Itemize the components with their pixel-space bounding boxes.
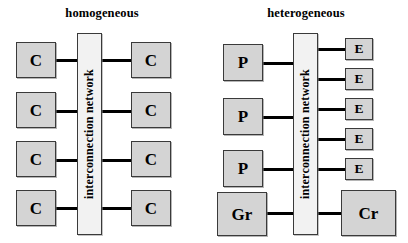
node-label: Cr: [359, 205, 379, 222]
interconnection-network-label: interconnection network: [82, 69, 97, 199]
panel-heterogeneous: heterogeneous interconnection network P …: [204, 0, 408, 243]
link-right-3: [101, 159, 132, 162]
node-left-p-3: P: [223, 150, 263, 187]
node-right-e-2: E: [345, 68, 373, 90]
link-left-p-2: [263, 116, 293, 119]
node-label: Gr: [232, 206, 253, 223]
node-right-e-4: E: [345, 128, 373, 150]
link-left-p-3: [263, 168, 293, 171]
node-right-c-4: C: [131, 190, 171, 226]
interconnection-network-homogeneous: interconnection network: [77, 33, 102, 235]
node-label: C: [30, 151, 42, 168]
panel-title-homogeneous: homogeneous: [0, 6, 204, 21]
link-right-4: [101, 207, 132, 210]
link-left-p-1: [263, 62, 293, 65]
link-right-1: [101, 59, 132, 62]
link-left-2: [55, 110, 78, 113]
node-label: E: [354, 162, 363, 176]
node-right-c-3: C: [131, 141, 171, 177]
node-label: C: [145, 200, 157, 217]
node-left-p-1: P: [223, 44, 263, 81]
node-label: P: [238, 108, 248, 125]
node-label: E: [354, 42, 363, 56]
link-right-2: [101, 110, 132, 113]
node-label: C: [30, 200, 42, 217]
node-right-c-2: C: [131, 92, 171, 128]
link-right-e-2: [318, 78, 345, 81]
node-label: C: [145, 102, 157, 119]
node-right-e-1: E: [345, 38, 373, 60]
node-right-e-5: E: [345, 158, 373, 180]
node-left-gr: Gr: [217, 192, 267, 236]
node-label: C: [30, 102, 42, 119]
node-right-c-1: C: [131, 42, 171, 78]
interconnection-network-heterogeneous: interconnection network: [293, 33, 318, 235]
node-left-c-2: C: [16, 92, 56, 128]
link-left-4: [55, 207, 78, 210]
link-right-e-5: [318, 168, 345, 171]
node-left-p-2: P: [223, 98, 263, 135]
link-right-e-1: [318, 48, 345, 51]
node-label: P: [238, 160, 248, 177]
link-right-e-4: [318, 138, 345, 141]
node-label: C: [30, 52, 42, 69]
interconnection-network-label: interconnection network: [298, 69, 313, 199]
link-right-cr: [318, 212, 341, 215]
node-label: P: [238, 54, 248, 71]
node-label: E: [354, 72, 363, 86]
diagram-root: homogeneous interconnection network C C …: [0, 0, 408, 243]
link-right-e-3: [318, 108, 345, 111]
link-left-1: [55, 59, 78, 62]
node-left-c-4: C: [16, 190, 56, 226]
node-right-e-3: E: [345, 98, 373, 120]
node-label: C: [145, 151, 157, 168]
link-left-3: [55, 159, 78, 162]
node-right-cr: Cr: [341, 190, 396, 236]
node-label: E: [354, 132, 363, 146]
panel-title-heterogeneous: heterogeneous: [204, 6, 408, 21]
node-label: E: [354, 102, 363, 116]
node-left-c-1: C: [16, 42, 56, 78]
node-left-c-3: C: [16, 141, 56, 177]
node-label: C: [145, 52, 157, 69]
panel-homogeneous: homogeneous interconnection network C C …: [0, 0, 204, 243]
link-left-gr: [267, 212, 293, 215]
